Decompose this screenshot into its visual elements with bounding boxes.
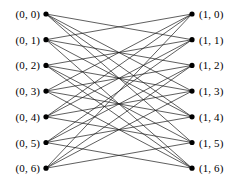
node-label-r6: (1, 6) [199,163,223,174]
graph-node-l5[interactable] [43,140,48,145]
graph-node-r2[interactable] [189,63,194,68]
graph-node-r5[interactable] [189,140,194,145]
node-label-r2: (1, 2) [199,60,223,71]
node-label-l4: (0, 4) [16,111,40,122]
node-label-r5: (1, 5) [199,137,223,148]
graph-node-r0[interactable] [189,11,194,16]
graph-node-l3[interactable] [43,89,48,94]
node-label-l5: (0, 5) [16,137,40,148]
node-label-l0: (0, 0) [16,9,40,20]
node-label-l2: (0, 2) [16,60,40,71]
node-label-l6: (0, 6) [16,163,40,174]
node-label-r4: (1, 4) [199,111,223,122]
graph-node-r3[interactable] [189,89,194,94]
graph-node-l4[interactable] [43,114,48,119]
node-label-r1: (1, 1) [199,34,223,45]
edges-group [46,14,192,168]
graph-node-r1[interactable] [189,37,194,42]
graph-node-r4[interactable] [189,114,194,119]
node-label-l1: (0, 1) [16,34,40,45]
graph-node-l6[interactable] [43,166,48,171]
node-label-l3: (0, 3) [16,86,40,97]
graph-node-l1[interactable] [43,37,48,42]
graph-edge [46,14,192,168]
graph-node-l2[interactable] [43,63,48,68]
bipartite-graph-figure: (0, 0)(0, 1)(0, 2)(0, 3)(0, 4)(0, 5)(0, … [0,0,241,190]
graph-node-l0[interactable] [43,11,48,16]
node-label-r0: (1, 0) [199,9,223,20]
graph-node-r6[interactable] [189,166,194,171]
node-label-r3: (1, 3) [199,86,223,97]
